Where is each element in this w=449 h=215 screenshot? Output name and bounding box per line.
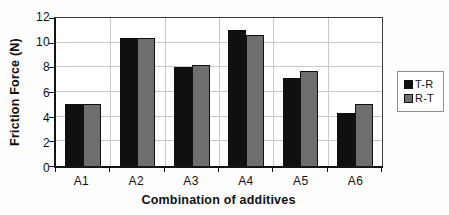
legend-entry-t-r: T-R: [404, 78, 443, 91]
y-tick-label: 10: [36, 36, 50, 48]
x-category-label: A3: [183, 175, 198, 188]
bar-r-t: [192, 65, 210, 166]
bar-r-t: [355, 104, 373, 166]
x-axis-title: Combination of additives: [54, 193, 383, 207]
x-category-label: A4: [238, 175, 253, 188]
x-tick-mark: [381, 167, 382, 172]
bar-t-r: [174, 67, 192, 166]
bar-group-a1: [56, 18, 110, 166]
y-tick-mark: [49, 141, 54, 142]
legend-label-t-r: T-R: [415, 79, 433, 90]
bar-t-r: [120, 38, 138, 166]
legend-entry-r-t: R-T: [404, 92, 443, 105]
bar-t-r: [337, 113, 355, 166]
bar-t-r: [283, 78, 301, 166]
x-tick-mark: [272, 167, 273, 172]
bar-group-a3: [165, 18, 219, 166]
bar-r-t: [83, 104, 101, 166]
bar-r-t: [246, 35, 264, 166]
bar-group-a4: [219, 18, 273, 166]
legend-swatch-r-t: [404, 94, 413, 103]
y-tick-mark: [49, 92, 54, 93]
x-category-label: A1: [74, 175, 89, 188]
plot-area: [54, 17, 383, 168]
y-tick-mark: [49, 43, 54, 44]
x-axis-tick-labels: A1A2A3A4A5A6: [54, 175, 383, 189]
bar-t-r: [65, 104, 83, 166]
x-tick-mark: [55, 167, 56, 172]
y-tick-mark: [49, 18, 54, 19]
y-axis-title: Friction Force (N): [8, 38, 22, 146]
x-category-label: A2: [129, 175, 144, 188]
y-tick-label: 0: [43, 162, 50, 174]
y-axis-tick-labels: 024681012: [22, 17, 50, 168]
y-tick-label: 2: [43, 137, 50, 149]
legend: T-RR-T: [397, 71, 444, 112]
y-tick-mark: [49, 117, 54, 118]
x-category-label: A6: [348, 175, 363, 188]
x-tick-mark: [164, 167, 165, 172]
bar-t-r: [228, 30, 246, 166]
x-tick-mark: [327, 167, 328, 172]
bar-group-a6: [328, 18, 382, 166]
legend-label-r-t: R-T: [415, 93, 434, 104]
x-tick-mark: [218, 167, 219, 172]
y-tick-label: 4: [43, 112, 50, 124]
y-tick-mark: [49, 67, 54, 68]
x-category-label: A5: [293, 175, 308, 188]
bar-group-a2: [110, 18, 164, 166]
legend-swatch-t-r: [404, 80, 413, 89]
y-tick-label: 12: [36, 11, 50, 23]
y-tick-mark: [49, 166, 54, 167]
bar-r-t: [137, 38, 155, 166]
bar-r-t: [300, 71, 318, 166]
bar-chart-figure: Friction Force (N) 024681012 A1A2A3A4A5A…: [0, 0, 449, 215]
x-tick-mark: [109, 167, 110, 172]
bar-group-a5: [273, 18, 327, 166]
